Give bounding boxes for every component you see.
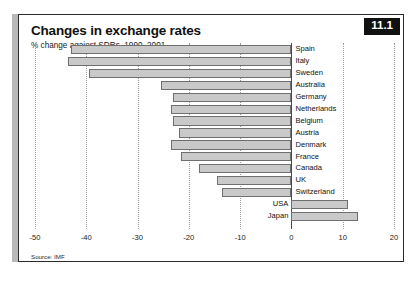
x-axis-tick-label: -50 bbox=[15, 233, 55, 242]
bar-category-label: Canada bbox=[295, 163, 322, 172]
x-axis-tick-label: -30 bbox=[118, 233, 158, 242]
bar bbox=[181, 152, 291, 161]
bar bbox=[171, 105, 292, 114]
bar-category-label: Italy bbox=[295, 56, 309, 65]
bar-category-label: Sweden bbox=[295, 68, 322, 77]
bar bbox=[68, 57, 291, 66]
bar bbox=[171, 140, 292, 149]
bar-category-label: Switzerland bbox=[295, 187, 334, 196]
x-axis-tick-label: -20 bbox=[169, 233, 209, 242]
bar-category-label: Denmark bbox=[295, 140, 326, 149]
figure-root: 11.1 Changes in exchange rates % change … bbox=[0, 0, 419, 282]
gridline--40 bbox=[86, 43, 87, 229]
chart-source: Source: IMF bbox=[31, 253, 65, 260]
bar bbox=[217, 176, 291, 185]
x-axis-tick-label: -10 bbox=[220, 233, 260, 242]
bar bbox=[173, 116, 291, 125]
plot-area: SpainItalySwedenAustraliaGermanyNetherla… bbox=[19, 15, 405, 263]
bar bbox=[89, 69, 292, 78]
bar-category-label: France bbox=[295, 152, 319, 161]
bar bbox=[71, 45, 292, 54]
bar-category-label: UK bbox=[295, 175, 306, 184]
bar bbox=[179, 128, 292, 137]
bar-category-label: Australia bbox=[295, 80, 325, 89]
bar bbox=[199, 164, 291, 173]
gridline-20 bbox=[394, 43, 395, 229]
bar-category-label: Spain bbox=[295, 44, 314, 53]
x-axis-tick-label: -40 bbox=[66, 233, 106, 242]
bar bbox=[291, 212, 358, 221]
x-axis-tick-label: 20 bbox=[374, 233, 414, 242]
bar bbox=[173, 93, 291, 102]
bar-category-label: Austria bbox=[295, 128, 319, 137]
x-axis-tick-label: 0 bbox=[271, 233, 311, 242]
bar-category-label: Belgium bbox=[295, 116, 322, 125]
bar bbox=[291, 200, 347, 209]
gridline--50 bbox=[35, 43, 36, 229]
chart-frame: 11.1 Changes in exchange rates % change … bbox=[18, 14, 404, 262]
x-axis-tick-label: 10 bbox=[323, 233, 363, 242]
bar-category-label: Germany bbox=[295, 92, 326, 101]
bar bbox=[161, 81, 292, 90]
bar-category-label: USA bbox=[273, 199, 289, 208]
bar bbox=[222, 188, 291, 197]
bar-category-label: Netherlands bbox=[295, 104, 336, 113]
bar-category-label: Japan bbox=[268, 211, 289, 220]
